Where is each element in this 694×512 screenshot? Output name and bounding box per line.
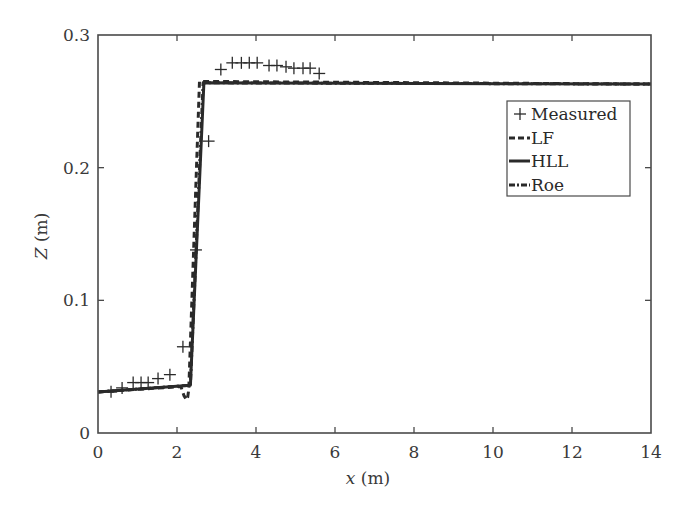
legend-label: Roe bbox=[531, 175, 564, 195]
x-tick-label: 2 bbox=[172, 442, 183, 462]
y-tick-label: 0.2 bbox=[63, 158, 90, 178]
y-tick-label: 0 bbox=[79, 423, 90, 443]
y-tick-label: 0.1 bbox=[63, 290, 90, 310]
x-tick-label: 8 bbox=[409, 442, 420, 462]
x-tick-label: 12 bbox=[561, 442, 583, 462]
x-axis-var: x bbox=[346, 468, 356, 488]
plot-frame bbox=[98, 35, 651, 433]
legend-label: LF bbox=[531, 128, 554, 148]
legend-label: HLL bbox=[531, 151, 568, 171]
x-tick-label: 14 bbox=[640, 442, 662, 462]
y-axis-ticks: 00.10.20.3 bbox=[63, 25, 651, 443]
x-axis-unit: (m) bbox=[355, 468, 390, 488]
x-tick-label: 0 bbox=[93, 442, 104, 462]
chart: 02468101214 00.10.20.3 x (m) Z (m) Measu… bbox=[0, 0, 694, 512]
x-tick-label: 10 bbox=[482, 442, 504, 462]
legend-label: Measured bbox=[531, 104, 617, 124]
x-tick-label: 4 bbox=[251, 442, 262, 462]
x-axis-label: x (m) bbox=[346, 468, 390, 488]
y-axis-label: Z (m) bbox=[31, 213, 51, 261]
legend: Measured LF HLL Roe bbox=[507, 101, 630, 196]
x-axis-ticks: 02468101214 bbox=[93, 35, 662, 462]
series-measured bbox=[105, 57, 325, 398]
x-tick-label: 6 bbox=[330, 442, 341, 462]
y-tick-label: 0.3 bbox=[63, 25, 90, 45]
y-axis-unit: (m) bbox=[31, 213, 51, 248]
